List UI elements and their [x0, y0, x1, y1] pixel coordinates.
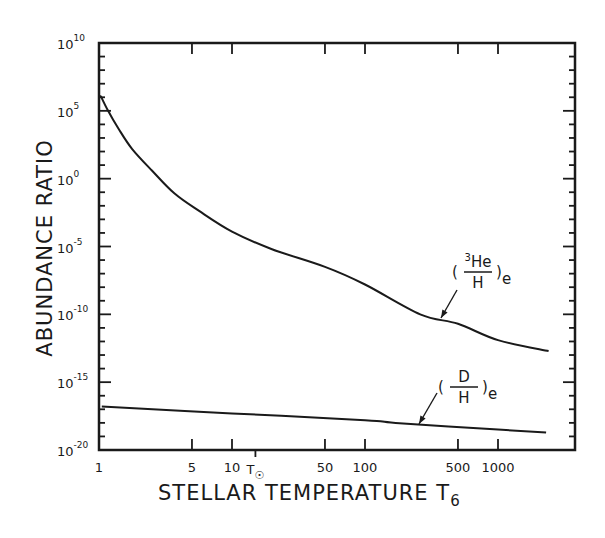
svg-text:e: e: [488, 385, 497, 403]
x-axis-title-sub: 6: [450, 492, 461, 510]
y-tick-label: 10-5: [57, 237, 83, 256]
x-tick-label: 5: [188, 460, 196, 475]
y-tick-label: 1010: [57, 33, 85, 52]
d-h-label: (DH)e: [438, 368, 497, 407]
x-tick-label: 100: [353, 460, 378, 475]
y-tick-label: 100: [57, 169, 80, 188]
curve-annotations: (3HeH)e(DH)e: [419, 252, 511, 424]
x-tick-label: 50: [317, 460, 334, 475]
svg-text:e: e: [502, 270, 511, 288]
x-tick-label: 10: [224, 460, 241, 475]
arrowhead-icon: [441, 310, 448, 318]
solar-temperature-label: T☉: [246, 462, 265, 482]
abundance-ratio-chart: 101010510010-510-1010-1510-20 1510501005…: [0, 0, 605, 538]
y-axis-ticks: 101010510010-510-1010-1510-20: [57, 33, 575, 459]
d-h-curve: [102, 407, 546, 433]
y-tick-label: 10-20: [57, 440, 89, 459]
svg-text:3He: 3He: [465, 252, 492, 271]
x-tick-label: 1000: [481, 460, 514, 475]
he3-h-label: (3HeH)e: [452, 252, 511, 292]
svg-text:H: H: [472, 274, 483, 292]
plot-border: [99, 43, 575, 450]
svg-text:(: (: [438, 378, 444, 396]
x-axis-title-main: STELLAR TEMPERATURE T: [158, 481, 450, 505]
svg-text:): ): [496, 263, 502, 281]
svg-text:(: (: [452, 263, 458, 281]
svg-text:D: D: [458, 368, 470, 386]
svg-text:): ): [482, 378, 488, 396]
y-tick-label: 105: [57, 101, 79, 120]
he3-h-curve: [101, 96, 549, 351]
arrowhead-icon: [419, 416, 426, 424]
plot-frame: [99, 43, 575, 450]
x-tick-label: 500: [446, 460, 471, 475]
svg-text:H: H: [458, 389, 469, 407]
x-axis-title: STELLAR TEMPERATURE T6: [158, 481, 461, 510]
y-tick-label: 10-10: [57, 304, 89, 323]
y-axis-title: ABUNDANCE RATIO: [33, 139, 57, 356]
y-tick-label: 10-15: [57, 372, 88, 391]
x-tick-label: 1: [95, 460, 103, 475]
